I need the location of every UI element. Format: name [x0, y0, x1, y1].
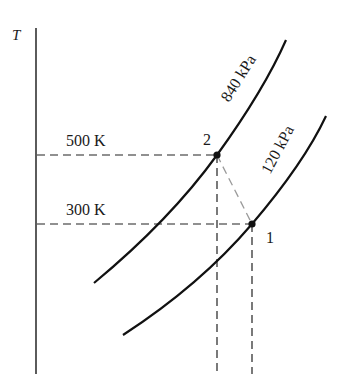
isobar-label-120kpa: 120 kPa [258, 123, 297, 177]
diagram-canvas: T 500 K 300 K 2 1 840 kPa 120 kPa [0, 0, 357, 374]
process-line-1-2 [217, 155, 252, 224]
y-axis-label: T [12, 27, 22, 43]
state-point-1 [248, 220, 255, 227]
isobar-label-840kpa: 840 kPa [217, 51, 259, 104]
isobar-120kpa-curve [123, 116, 326, 335]
state-label-2: 2 [203, 131, 211, 148]
temperature-label-500k: 500 K [66, 132, 106, 149]
state-point-2 [213, 151, 220, 158]
temperature-label-300k: 300 K [66, 201, 106, 218]
isobar-840kpa-curve [94, 40, 286, 283]
state-label-1: 1 [266, 229, 274, 246]
